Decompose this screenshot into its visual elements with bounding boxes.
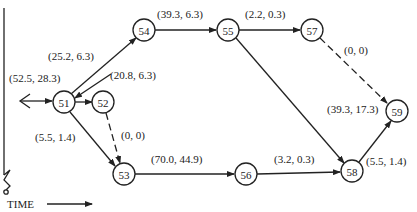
node-label: 52 xyxy=(98,97,109,109)
node-label: 56 xyxy=(241,169,253,181)
left-boundary-line xyxy=(4,8,10,194)
edge-label: (0, 0) xyxy=(344,44,368,57)
edge-label: (39.3, 17.3) xyxy=(327,103,379,116)
edge-label: (5.5, 1.4) xyxy=(35,131,76,144)
edge-label: (25.2, 6.3) xyxy=(48,50,94,63)
edge-label: (2.2, 0.3) xyxy=(245,8,286,21)
edge-52-53 xyxy=(106,113,120,163)
edge-55-58 xyxy=(236,38,344,163)
node-label: 59 xyxy=(392,106,404,118)
network-diagram: 51 52 53 54 55 56 57 58 59 (52.5, 28.3) … xyxy=(0,0,417,212)
node-label: 57 xyxy=(307,25,319,37)
edge-51-54 xyxy=(71,38,136,94)
node-label: 55 xyxy=(223,25,235,37)
node-label: 58 xyxy=(347,166,359,178)
edge-label: (0, 0) xyxy=(121,129,145,142)
node-label: 53 xyxy=(119,169,131,181)
edge-label: (5.5, 1.4) xyxy=(366,155,407,168)
time-axis-label: TIME xyxy=(7,198,34,210)
node-label: 54 xyxy=(139,25,151,37)
edge-label: (39.3, 6.3) xyxy=(157,8,203,21)
node-label: 51 xyxy=(59,97,70,109)
edge-label: (52.5, 28.3) xyxy=(9,72,61,85)
edge-label: (20.8, 6.3) xyxy=(110,69,156,82)
edge-51-53 xyxy=(70,112,115,166)
start-break-icon xyxy=(20,94,52,108)
edge-label: (70.0, 44.9) xyxy=(151,153,203,166)
edge-label: (3.2, 0.3) xyxy=(274,153,315,166)
edge-56-58 xyxy=(257,172,340,174)
